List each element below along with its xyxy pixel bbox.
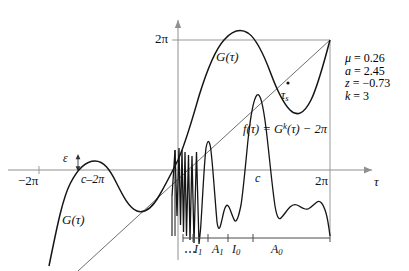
interval-I0-sub: 0 — [236, 247, 240, 257]
epsilon-label: ε — [63, 152, 68, 164]
x-axis-tick-label-minus-2pi: −2π — [18, 174, 38, 187]
g-curve-label-upper: G(τ) — [216, 50, 239, 63]
epsilon-arrow-head-up — [76, 154, 81, 159]
interval-label-A1: A1 — [212, 243, 224, 257]
y-axis-arrow — [175, 20, 181, 28]
parameter-k: k = 3 — [345, 90, 390, 103]
interval-I1-sub: 1 — [198, 247, 202, 257]
interval-label-I0: I0 — [232, 243, 240, 257]
parameter-list: μ = 0.26 a = 2.45 z = −0.73 k = 3 — [345, 52, 390, 102]
equation-lhs: f(τ) = G — [243, 122, 283, 136]
interval-A0-sub: 0 — [278, 247, 282, 257]
equation-rhs: (τ) − 2π — [287, 122, 327, 136]
interval-A1-sub: 1 — [219, 247, 223, 257]
parameter-k-name: k — [345, 89, 350, 103]
figure-canvas: 2π −2π 2π τ ε c–2π G(τ) G(τ) c τs f(τ) =… — [0, 0, 409, 271]
equation-label: f(τ) = Gk(τ) − 2π — [243, 122, 327, 136]
tau-s-label: τs — [281, 89, 289, 103]
c-minus-2pi-label: c–2π — [81, 173, 104, 185]
y-axis-tick-label-2pi: 2π — [155, 32, 168, 45]
x-axis-arrow — [364, 167, 372, 174]
x-axis-label-tau: τ — [374, 175, 379, 188]
interval-label-A0: A0 — [271, 243, 283, 257]
x-axis-tick-label-2pi: 2π — [315, 174, 328, 187]
parameter-k-eq: = — [353, 89, 360, 103]
g-curve-label-lower: G(τ) — [62, 213, 85, 226]
parameter-k-value: 3 — [363, 89, 369, 103]
c-label: c — [255, 172, 260, 184]
identity-diagonal-line — [78, 40, 330, 271]
tau-s-marker — [286, 81, 289, 84]
tau-s-subscript: s — [285, 93, 288, 103]
interval-label-I1: I1 — [194, 243, 202, 257]
f-curve — [172, 95, 330, 244]
function-plot-svg — [0, 0, 409, 271]
